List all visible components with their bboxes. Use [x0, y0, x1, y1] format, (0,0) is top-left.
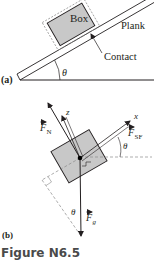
contact-leader-line — [91, 34, 102, 53]
lower-angle-label: θ — [71, 207, 76, 217]
svg-text:SF: SF — [135, 133, 143, 141]
panel-b-label: (b) — [2, 230, 13, 240]
incline-angle-arc — [55, 60, 60, 80]
box-label: Box — [70, 12, 89, 24]
incline-angle-label: θ — [62, 67, 67, 78]
upper-angle-arc — [118, 137, 121, 157]
plank-label: Plank — [121, 20, 146, 31]
static-friction-label: F SF — [127, 127, 142, 141]
x-axis-label: x — [133, 111, 138, 121]
right-angle-marker-lower — [46, 177, 52, 186]
figure-caption: Figure N6.5 — [1, 246, 80, 260]
upper-angle-label: θ — [123, 141, 128, 151]
z-axis-label: z — [65, 107, 70, 117]
contact-label: Contact — [104, 51, 137, 62]
panel-a: Box Plank Contact θ (a) — [1, 0, 154, 86]
svg-text:g: g — [93, 218, 97, 226]
panel-b: z x F N F SF θ F g θ — [2, 103, 152, 240]
panel-a-label: (a) — [1, 74, 13, 86]
box — [47, 3, 95, 46]
gravity-force-label: F g — [85, 212, 97, 226]
svg-text:N: N — [47, 128, 52, 136]
figure-canvas: Box Plank Contact θ (a) z — [0, 0, 154, 261]
normal-force-label: F N — [39, 122, 52, 136]
center-of-mass-dot — [78, 156, 83, 161]
